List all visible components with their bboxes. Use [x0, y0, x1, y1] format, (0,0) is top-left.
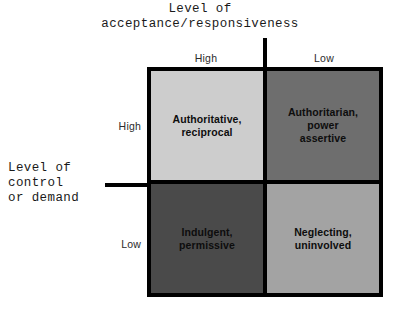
vertical-axis-tick-low: Low	[101, 238, 141, 250]
quadrant-label: Neglecting, uninvolved	[294, 226, 352, 252]
parenting-styles-matrix: Authoritative, reciprocal Authoritarian,…	[147, 67, 383, 297]
horizontal-axis-tick-high: High	[147, 52, 265, 64]
horizontal-axis-title-line1: Level of	[168, 2, 231, 16]
quadrant-label: Authoritative, reciprocal	[172, 113, 241, 139]
horizontal-axis-tick-low: Low	[265, 52, 383, 64]
vertical-axis-tick-high: High	[101, 120, 141, 132]
vertical-axis-title: Level ofcontrolor demand	[8, 161, 79, 206]
vertical-axis-title-line1: Level of	[8, 161, 71, 175]
horizontal-axis-title-line2: acceptance/responsiveness	[101, 17, 299, 31]
quadrant-neglecting-uninvolved: Neglecting, uninvolved	[267, 184, 379, 293]
quadrant-indulgent-permissive: Indulgent, permissive	[151, 184, 263, 293]
quadrant-authoritative-reciprocal: Authoritative, reciprocal	[151, 71, 263, 180]
quadrant-label: Indulgent, permissive	[179, 226, 235, 252]
horizontal-axis-title: Level ofacceptance/responsiveness	[0, 2, 400, 32]
vertical-axis-title-line2: control	[8, 176, 63, 190]
quadrant-label: Authoritarian, power assertive	[288, 106, 358, 145]
quadrant-authoritarian-power-assertive: Authoritarian, power assertive	[267, 71, 379, 180]
vertical-axis-title-line3: or demand	[8, 191, 79, 205]
